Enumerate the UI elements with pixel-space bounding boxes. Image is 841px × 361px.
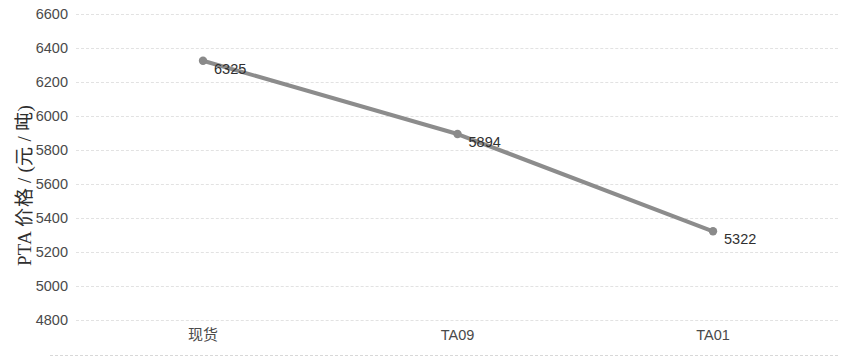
line-chart: PTA 价格 / (元 / 吨) 66006400620060005800560…	[0, 0, 841, 361]
x-axis-category-label: TA09	[378, 328, 538, 343]
series-line	[203, 61, 713, 232]
x-axis-category-label: 现货	[123, 328, 283, 343]
data-point-marker[interactable]	[199, 57, 207, 65]
data-point-label: 6325	[214, 62, 246, 77]
series-layer	[0, 0, 841, 361]
data-point-marker[interactable]	[453, 130, 461, 138]
x-axis-category-label: TA01	[633, 328, 793, 343]
data-point-marker[interactable]	[709, 227, 717, 235]
data-point-label: 5894	[469, 135, 501, 150]
data-point-label: 5322	[724, 232, 756, 247]
